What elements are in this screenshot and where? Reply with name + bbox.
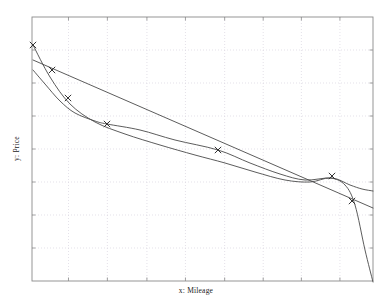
scatter-plot-canvas — [0, 0, 392, 306]
curve-2 — [33, 70, 373, 191]
y-axis-label: y: Price — [12, 119, 21, 179]
data-marker — [30, 42, 36, 48]
horizontal-gridlines — [32, 50, 373, 248]
fitted-curves — [33, 45, 373, 282]
x-axis-ticks — [68, 278, 339, 282]
data-marker — [65, 95, 71, 101]
data-marker — [49, 67, 55, 73]
curve-1 — [33, 60, 373, 208]
data-marker — [215, 147, 221, 153]
curve-3 — [33, 45, 373, 282]
x-axis-ticks-top — [68, 17, 339, 21]
chart-figure: x: Mileage y: Price — [0, 0, 392, 306]
y-axis-ticks — [32, 50, 36, 248]
y-axis-ticks-right — [370, 50, 374, 248]
x-axis-label: x: Mileage — [0, 286, 392, 295]
